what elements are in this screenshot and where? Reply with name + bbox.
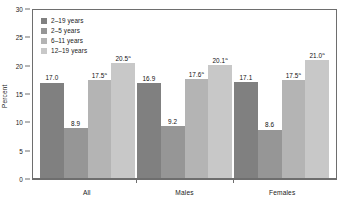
bar-fill [88,80,112,178]
bar-value-footnote: a [322,51,325,56]
bar-value-label: 16.9 [142,75,155,82]
legend-item-0[interactable]: 2–19 years [41,17,87,24]
y-axis-tick-mark [25,9,30,10]
bar-group-males: 16.99.217.6a20.1a [136,10,233,178]
bar[interactable]: 17.5a [282,80,306,178]
bar-chart: Percent 051015202530 17.08.917.5a20.5a16… [0,0,346,217]
legend-item-label: 2–19 years [51,17,84,24]
y-axis-tick-mark [25,122,30,123]
bar-fill [234,82,258,178]
bar-fill [64,128,88,178]
y-axis-tick-label: 5 [19,147,23,154]
legend-item-label: 12–19 years [51,47,87,54]
bar-value-footnote: a [225,56,228,61]
y-axis-tick-mark [25,37,30,38]
bar-value-label: 9.2 [168,118,177,125]
bar-fill [40,83,64,178]
bar[interactable]: 17.5a [88,80,112,178]
bar-value-label: 17.1 [239,74,252,81]
y-axis: Percent 051015202530 [0,0,32,217]
bar-fill [137,83,161,178]
y-axis-tick-label: 15 [16,91,23,98]
x-axis-group-all: All [38,179,136,217]
chart-legend: 2–19 years2–5 years6–11 years12–19 years [41,17,87,54]
legend-swatch-icon [41,48,47,54]
bar[interactable]: 20.5a [111,63,135,178]
x-axis-group-divider [136,179,137,183]
legend-item-2[interactable]: 6–11 years [41,37,87,44]
bar-value-footnote: a [202,70,205,75]
bar-value-footnote: a [299,70,302,75]
legend-swatch-icon [41,38,47,44]
bar-value-label: 17.0 [45,74,58,81]
bar[interactable]: 17.0 [40,83,64,178]
bar[interactable]: 21.0a [305,60,329,178]
y-axis-title: Percent [1,85,8,108]
bar-value-label: 8.6 [265,121,274,128]
bar-value-label: 17.5a [92,72,107,79]
bar-value-footnote: a [128,54,131,59]
bar-value-label: 17.6a [189,71,204,78]
y-axis-tick-mark [25,150,30,151]
x-axis-group-label: Males [136,189,234,196]
bar-value-label: 21.0a [309,52,324,59]
x-axis-group-label: Females [233,189,331,196]
x-axis-group-divider [233,179,234,183]
bar-fill [305,60,329,178]
legend-item-1[interactable]: 2–5 years [41,27,87,34]
y-axis-tick-mark [25,179,30,180]
bar-fill [161,126,185,178]
y-axis-tick-label: 10 [16,119,23,126]
bar[interactable]: 17.6a [185,79,209,178]
legend-swatch-icon [41,28,47,34]
bar-fill [111,63,135,178]
legend-item-label: 2–5 years [51,27,80,34]
legend-item-3[interactable]: 12–19 years [41,47,87,54]
bar-value-label: 17.5a [286,72,301,79]
plot-area: 17.08.917.5a20.5a16.99.217.6a20.1a17.18.… [32,9,337,179]
x-axis-group-males: Males [136,179,234,217]
bar-value-footnote: a [105,70,108,75]
y-axis-tick-label: 25 [16,34,23,41]
x-axis-labels: AllMalesFemales [32,179,337,217]
y-axis-tick-mark [25,94,30,95]
bar[interactable]: 17.1 [234,82,258,178]
bar[interactable]: 8.6 [258,130,282,178]
bar[interactable]: 8.9 [64,128,88,178]
legend-swatch-icon [41,18,47,24]
y-axis-tick-mark [25,65,30,66]
legend-item-label: 6–11 years [51,37,83,44]
bar-fill [258,130,282,178]
bar-fill [282,80,306,178]
x-axis-group-label: All [38,189,136,196]
y-axis-tick-label: 30 [16,6,23,13]
bar-fill [208,65,232,178]
bar-value-label: 20.5a [115,55,130,62]
bar-value-label: 8.9 [71,120,80,127]
y-axis-tick-label: 0 [19,176,23,183]
x-axis-group-females: Females [233,179,331,217]
x-axis: AllMalesFemales [32,179,337,217]
y-axis-tick-label: 20 [16,62,23,69]
bar-group-females: 17.18.617.5a21.0a [233,10,330,178]
bar-fill [185,79,209,178]
bar[interactable]: 20.1a [208,65,232,178]
bar[interactable]: 9.2 [161,126,185,178]
bar-value-label: 20.1a [212,57,227,64]
bar[interactable]: 16.9 [137,83,161,178]
